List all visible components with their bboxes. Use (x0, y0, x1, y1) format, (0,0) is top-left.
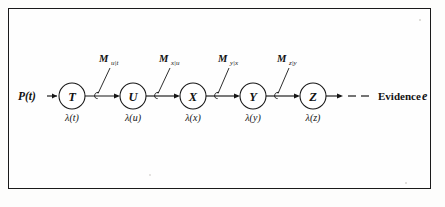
lambda-label-z: λ(z) (305, 112, 322, 124)
message-label-sub-3: y|x (229, 59, 239, 67)
evidence-text-label: Evidence (378, 90, 421, 102)
message-label-sub-2: x|u (170, 59, 180, 67)
message-label-t-u: M u|t (98, 53, 119, 67)
message-label-x-y: M y|x (217, 53, 239, 67)
message-label-base-3: M (217, 53, 228, 64)
evidence-symbol-label: e (422, 89, 428, 103)
scan-speck (405, 182, 407, 184)
node-label-z: Z (308, 90, 317, 104)
edge-arrow-u-x (174, 93, 180, 98)
prior-probability-label: P(t) (18, 90, 36, 103)
prior-arrow-head (52, 94, 57, 99)
edge-arrow-y-z (294, 93, 300, 98)
scan-speck (149, 174, 151, 176)
chain-diagram: P(t) Evidence e T (0, 0, 445, 207)
message-leader-u-x (158, 68, 170, 94)
edge-arrow-t-u (114, 93, 120, 98)
edge-arrow-z-evidence (337, 93, 343, 98)
lambda-label-t: λ(t) (64, 112, 79, 124)
lambda-label-y: λ(y) (244, 112, 261, 124)
node-label-u: U (128, 90, 138, 104)
edge-arrow-x-y (234, 93, 240, 98)
message-leader-y-z (278, 68, 289, 94)
message-label-base-4: M (276, 53, 287, 64)
message-label-sub-4: z|y (288, 59, 298, 67)
message-leader-x-y (218, 68, 229, 94)
message-label-base-2: M (158, 53, 169, 64)
scan-speck (419, 19, 421, 21)
figure-page: P(t) Evidence e T (0, 0, 445, 207)
message-label-base-1: M (98, 53, 109, 64)
node-label-x: X (188, 90, 198, 104)
message-label-sub-1: u|t (111, 59, 119, 67)
message-leader-t-u (98, 68, 110, 94)
message-label-u-x: M x|u (158, 53, 180, 67)
message-label-y-z: M z|y (276, 53, 298, 67)
lambda-label-u: λ(u) (124, 112, 142, 124)
lambda-label-x: λ(x) (184, 112, 201, 124)
